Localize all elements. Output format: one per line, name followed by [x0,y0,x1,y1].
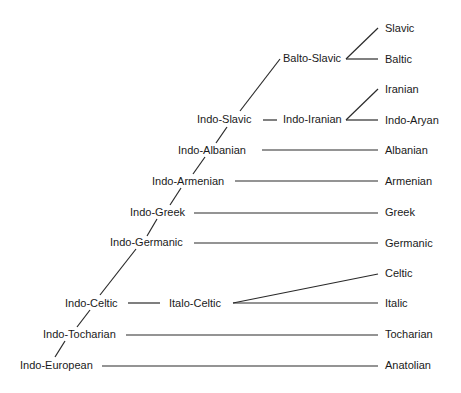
leaf-albanian: Albanian [385,144,428,157]
leaf-anatolian: Anatolian [385,359,431,372]
edge-celtic [233,274,378,303]
edge-indo-greek-to-indo-armenian [170,188,181,205]
leaf-celtic: Celtic [385,267,413,280]
leaf-tocharian: Tocharian [385,328,433,341]
node-indo-armenian: Indo-Armenian [152,175,224,188]
node-italo-celtic: Italo-Celtic [169,297,221,310]
node-indo-greek: Indo-Greek [130,206,185,219]
node-indo-iranian: Indo-Iranian [283,113,342,126]
leaf-armenian: Armenian [385,175,432,188]
edge-indo-germanic-to-indo-greek [147,219,157,236]
node-indo-celtic: Indo-Celtic [65,297,118,310]
node-indo-germanic: Indo-Germanic [110,236,183,249]
leaf-italic: Italic [385,297,408,310]
edge-ie-to-indo-tocharian [55,341,65,357]
leaf-iranian: Iranian [385,83,419,96]
leaf-slavic: Slavic [385,22,414,35]
node-indo-tocharian: Indo-Tocharian [43,328,116,341]
edge-indo-celtic-to-indo-germanic [100,249,136,295]
edge-indo-armenian-to-indo-albanian [193,157,205,174]
edge-indo-tocharian-to-indo-celtic [77,310,90,327]
edge-indo-slavic-to-balto-slavic [240,59,280,111]
edge-slavic [346,28,378,59]
leaf-germanic: Germanic [385,237,433,250]
node-balto-slavic: Balto-Slavic [283,52,341,65]
edge-indo-albanian-to-indo-slavic [216,127,227,143]
leaf-baltic: Baltic [385,53,412,66]
leaf-greek: Greek [385,206,415,219]
node-indo-albanian: Indo-Albanian [178,144,246,157]
leaf-indo-aryan: Indo-Aryan [385,114,439,127]
edge-iranian [346,89,378,120]
node-indo-slavic: Indo-Slavic [197,113,251,126]
node-indo-european: Indo-European [20,359,93,372]
